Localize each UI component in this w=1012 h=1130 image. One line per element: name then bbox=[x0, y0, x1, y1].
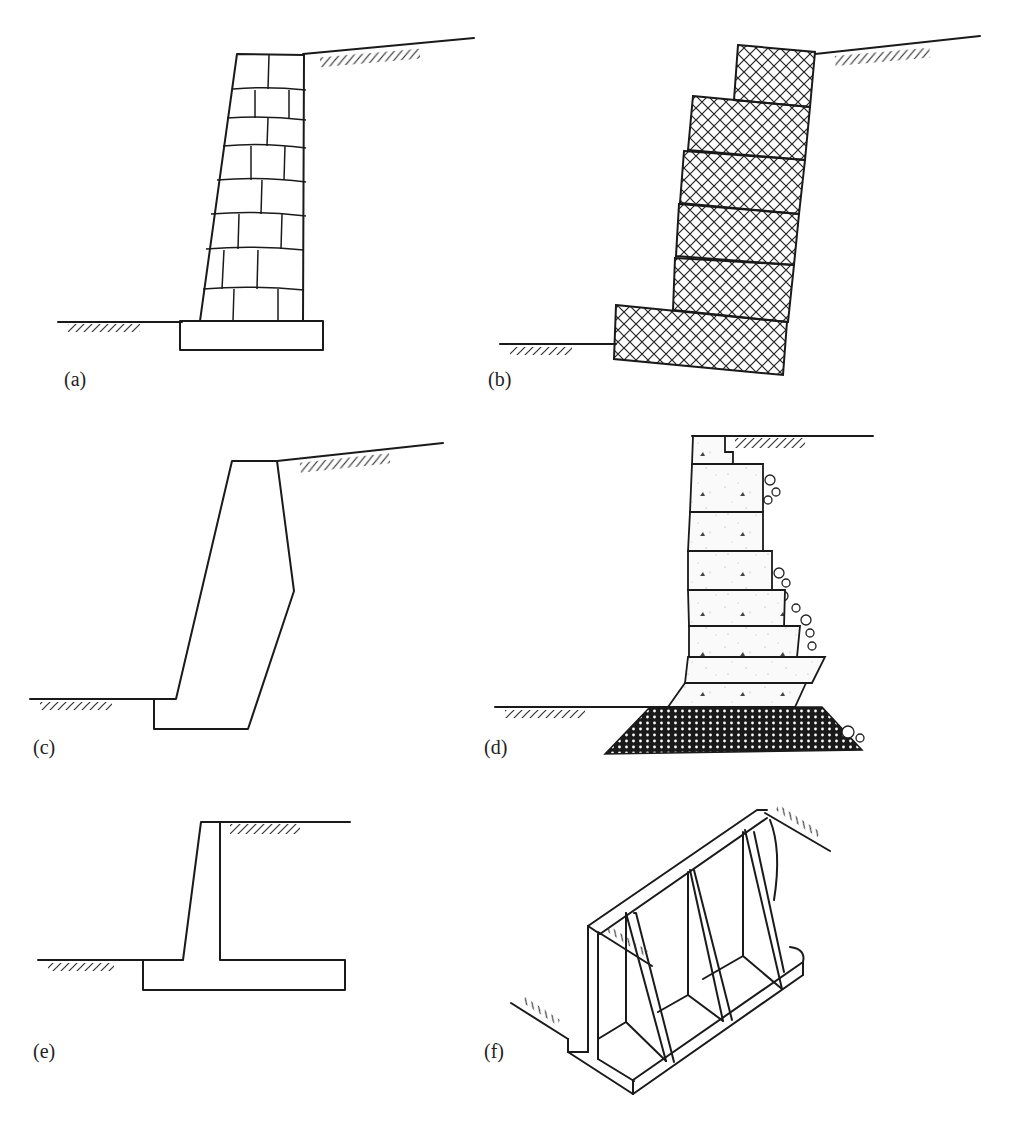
panel-c-gravity-wall bbox=[30, 443, 443, 729]
panel-label-b: (b) bbox=[488, 368, 511, 391]
panel-label-c: (c) bbox=[33, 736, 55, 759]
panel-d-block-wall bbox=[495, 436, 873, 754]
panel-e-cantilever-wall bbox=[38, 822, 350, 990]
panel-label-d: (d) bbox=[484, 736, 507, 759]
panel-label-e: (e) bbox=[33, 1040, 55, 1063]
panel-a-masonry-wall bbox=[58, 38, 474, 350]
panel-f-counterfort-wall bbox=[511, 810, 830, 1094]
panel-label-a: (a) bbox=[64, 368, 86, 391]
panel-b-gabion-wall bbox=[500, 36, 980, 375]
retaining-walls-figure bbox=[0, 0, 1012, 1130]
panel-label-f: (f) bbox=[484, 1040, 504, 1063]
